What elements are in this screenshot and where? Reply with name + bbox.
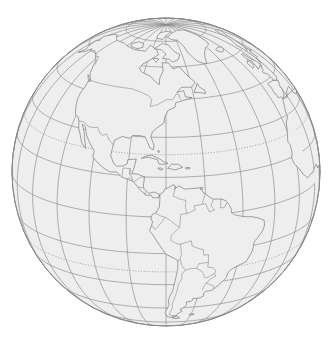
land-falklands bbox=[189, 314, 194, 315]
land-puerto-rico bbox=[186, 168, 190, 169]
land-trinidad bbox=[200, 187, 202, 189]
globe-map bbox=[0, 0, 332, 340]
